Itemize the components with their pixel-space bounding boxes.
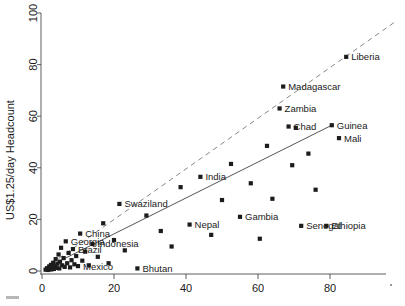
data-point xyxy=(71,247,75,251)
data-point xyxy=(287,124,291,128)
point-label: Mexico xyxy=(83,261,113,272)
scatter-plot-figure: 020406080100020406080 MadagascarLiberiaZ… xyxy=(0,0,405,306)
x-tick-label: 40 xyxy=(180,282,192,294)
data-point xyxy=(188,222,192,226)
data-point xyxy=(209,233,213,237)
data-point xyxy=(96,255,100,259)
data-point xyxy=(59,246,63,250)
data-point xyxy=(76,264,80,268)
bottom-right-artifact xyxy=(390,284,392,286)
data-point xyxy=(159,229,163,233)
data-point xyxy=(65,261,69,265)
point-label: Chad xyxy=(294,121,317,132)
data-point xyxy=(56,252,60,256)
data-point xyxy=(258,237,262,241)
point-label: Nepal xyxy=(195,219,220,230)
data-point xyxy=(72,262,76,266)
x-tick-label: 0 xyxy=(39,282,45,294)
data-point xyxy=(63,265,67,269)
data-point xyxy=(101,221,105,225)
data-point xyxy=(314,188,318,192)
point-label: Liberia xyxy=(351,51,380,62)
data-point xyxy=(306,152,310,156)
point-labels: MadagascarLiberiaZambiaChadGuineaMaliSwa… xyxy=(71,51,381,274)
y-tick-label: 60 xyxy=(27,110,39,122)
data-point xyxy=(62,256,66,260)
data-point xyxy=(265,144,269,148)
bottom-left-artifact xyxy=(6,296,19,299)
y-tick-label: 20 xyxy=(27,213,39,225)
y-axis-title: US$1.25/day Headcount xyxy=(4,100,16,220)
data-point xyxy=(290,163,294,167)
x-tick-label: 20 xyxy=(108,282,120,294)
data-point xyxy=(344,55,348,59)
data-point xyxy=(281,84,285,88)
point-label: Swaziland xyxy=(124,198,167,209)
point-label: Madagascar xyxy=(288,81,340,92)
data-point xyxy=(135,266,139,270)
data-point xyxy=(68,265,72,269)
data-point xyxy=(238,215,242,219)
data-point xyxy=(144,213,148,217)
data-point xyxy=(54,257,58,261)
data-point xyxy=(58,260,62,264)
data-point xyxy=(198,175,202,179)
point-label: Ethiopia xyxy=(331,220,366,231)
y-tick-label: 100 xyxy=(27,4,39,22)
point-label: India xyxy=(205,171,226,182)
plot-canvas: 020406080100020406080 MadagascarLiberiaZ… xyxy=(0,0,405,306)
y-tick-label: 80 xyxy=(27,58,39,70)
x-tick-label: 60 xyxy=(252,282,264,294)
data-point xyxy=(337,136,341,140)
data-point xyxy=(249,181,253,185)
y-tick-label: 0 xyxy=(27,268,39,274)
data-point xyxy=(270,197,274,201)
data-point xyxy=(299,224,303,228)
data-point xyxy=(117,202,121,206)
point-label: Mali xyxy=(344,133,361,144)
data-point xyxy=(179,185,183,189)
data-point xyxy=(220,198,224,202)
point-label: Bhutan xyxy=(142,263,172,274)
point-label: Zambia xyxy=(285,103,317,114)
point-label: Brazil xyxy=(78,244,102,255)
data-point xyxy=(67,251,71,255)
data-point xyxy=(330,123,334,127)
point-label: Gambia xyxy=(245,211,279,222)
data-point xyxy=(69,258,73,262)
data-point xyxy=(229,162,233,166)
y-tick-label: 40 xyxy=(27,162,39,174)
data-point xyxy=(278,106,282,110)
point-label: Guinea xyxy=(337,120,368,131)
data-point xyxy=(170,244,174,248)
data-point xyxy=(64,239,68,243)
x-tick-label: 80 xyxy=(324,282,336,294)
point-label: Indonesia xyxy=(97,238,139,249)
